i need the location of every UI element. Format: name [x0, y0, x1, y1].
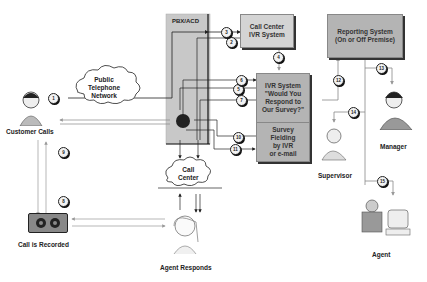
step-9-badge: 9: [58, 147, 69, 158]
call-center-line1: Call: [178, 166, 199, 174]
pbx-label: PBX/ACD: [172, 18, 199, 24]
survey-fielding-line3: by IVR: [273, 142, 293, 150]
manager-label: Manager: [380, 143, 407, 150]
agent-responds-person-icon: [170, 212, 200, 254]
customer-person-icon: [18, 90, 44, 126]
step-4-badge: 4: [273, 52, 284, 63]
call-recorded-label: Call is Recorded: [18, 241, 69, 248]
survey-fielding-line1: Survey: [272, 126, 294, 134]
pstn-line3: Network: [88, 92, 120, 100]
step-11-badge: 11: [230, 144, 241, 155]
call-center-ivr-box: Call Center IVR System: [240, 14, 294, 48]
pstn-line2: Telephone: [88, 84, 120, 92]
pstn-line1: Public: [88, 76, 120, 84]
supervisor-person-icon: [316, 126, 348, 162]
customer-calls-label: Customer Calls: [6, 128, 54, 135]
step-1-badge: 1: [48, 93, 59, 104]
call-center-line2: Center: [178, 174, 199, 182]
agent-label: Agent: [372, 251, 390, 258]
step-13-badge: 13: [376, 63, 387, 74]
tape-recorder-icon: [28, 213, 68, 233]
step-14-badge: 14: [348, 107, 359, 118]
reporting-line1: Reporting System: [337, 28, 393, 36]
manager-person-icon: [376, 88, 416, 130]
ivr-survey-box: IVR System "Would You Respond to Our Sur…: [256, 73, 310, 123]
step-7-badge: 7: [236, 95, 247, 106]
step-8-badge: 8: [58, 196, 69, 207]
step-6-badge: 6: [236, 75, 247, 86]
agent-responds-label: Agent Responds: [160, 264, 212, 271]
survey-fielding-line4: or e-mail: [269, 150, 296, 158]
call-center-cloud-label: Call Center: [178, 166, 199, 182]
ivr-survey-line3: Respond to: [265, 98, 301, 106]
call-center-ivr-line1: Call Center: [250, 23, 284, 31]
step-2-badge: 2: [226, 37, 237, 48]
supervisor-label: Supervisor: [318, 172, 352, 179]
agent-person-icon: [356, 196, 412, 238]
survey-fielding-line2: Fielding: [271, 134, 296, 142]
step-12-badge: 12: [333, 75, 344, 86]
pstn-label: Public Telephone Network: [88, 76, 120, 100]
reporting-system-box: Reporting System (On or Off Premise): [327, 14, 403, 58]
ivr-survey-line1: IVR System: [265, 82, 301, 90]
call-center-ivr-line2: IVR System: [249, 31, 285, 39]
ivr-survey-line2: "Would You: [265, 90, 301, 98]
ivr-survey-line4: Our Survey?": [262, 106, 304, 114]
step-15-badge: 15: [377, 176, 388, 187]
survey-fielding-box: Survey Fielding by IVR or e-mail: [256, 122, 310, 162]
step-10-badge: 10: [233, 132, 244, 143]
step-3-badge: 3: [221, 27, 232, 38]
reporting-line2: (On or Off Premise): [335, 36, 395, 44]
